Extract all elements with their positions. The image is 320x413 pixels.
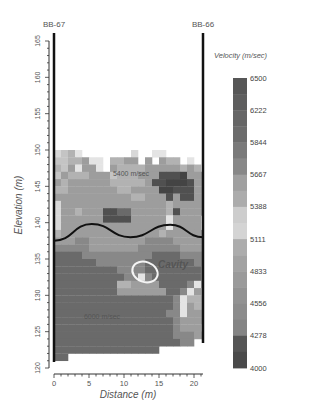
tomogram-cell (75, 339, 82, 347)
tomogram-cell (68, 194, 75, 202)
tomogram-cell (131, 215, 138, 223)
tomogram-cell (75, 317, 82, 325)
tomogram-cell (124, 252, 131, 260)
tomogram-cell (89, 295, 96, 303)
colorbar-band (233, 352, 247, 369)
colorbar-label: 4000 (250, 364, 267, 373)
tomogram-cell (187, 274, 194, 282)
tomogram-cell (117, 339, 124, 347)
tomogram-cell (194, 237, 201, 245)
tomogram-cell (124, 274, 131, 282)
tomogram-cell (194, 332, 201, 340)
tomogram-cell (68, 157, 75, 165)
tomogram-cell (173, 179, 180, 187)
tomogram-cell (159, 324, 166, 332)
tomogram-cell (75, 208, 82, 216)
tomogram-cell (117, 194, 124, 202)
tomogram-cell (82, 303, 89, 311)
tomogram-cell (61, 266, 68, 274)
tomogram-cell (110, 332, 117, 340)
tomogram-cell (82, 324, 89, 332)
tomogram-cell (166, 194, 173, 202)
tomogram-cell (159, 201, 166, 209)
tomogram-cell (138, 244, 145, 252)
tomogram-cell (173, 244, 180, 252)
colorbar (233, 78, 247, 368)
tomogram-cell (82, 339, 89, 347)
tomogram-cell (180, 324, 187, 332)
tomogram-cell (138, 303, 145, 311)
tomogram-cell (173, 274, 180, 282)
tomogram-cell (61, 208, 68, 216)
tomogram-cell (173, 186, 180, 194)
tomogram-cell (89, 324, 96, 332)
tomogram-cell (180, 339, 187, 347)
tomogram-cell (145, 252, 152, 260)
tomogram-cell (159, 295, 166, 303)
tomogram-cell (82, 266, 89, 274)
tomogram-cell (166, 274, 173, 282)
tomogram-cell (159, 244, 166, 252)
tomogram-cell (75, 215, 82, 223)
tomogram-cell (89, 186, 96, 194)
tomogram-cell (166, 310, 173, 318)
tomogram-cell (124, 194, 131, 202)
tomogram-cell (124, 339, 131, 347)
tomogram-cell (124, 332, 131, 340)
tomogram-cell (96, 259, 103, 267)
tomogram-cell (103, 339, 110, 347)
tomogram-cell (96, 237, 103, 245)
tomogram-cell (75, 172, 82, 180)
tomogram-cell (173, 295, 180, 303)
tomogram-cell (194, 186, 201, 194)
tomogram-cell (110, 179, 117, 187)
tomogram-cell (131, 303, 138, 311)
tomogram-cell (75, 310, 82, 318)
tomogram-cell (173, 157, 180, 165)
tomogram-cell (152, 201, 159, 209)
colorbar-label: 6222 (250, 106, 267, 115)
tomogram-cell (159, 208, 166, 216)
tomogram-cell (96, 179, 103, 187)
tomogram-cell (103, 259, 110, 267)
tomogram-cell (110, 223, 117, 231)
tomogram-cell (138, 223, 145, 231)
tomogram-cell (89, 252, 96, 260)
tomogram-cell (145, 295, 152, 303)
tomogram-cell (68, 317, 75, 325)
colorbar-band (233, 255, 247, 272)
tomogram-cell (110, 237, 117, 245)
tomogram-cell (75, 332, 82, 340)
tomogram-cell (173, 194, 180, 202)
tomogram-cell (96, 208, 103, 216)
tomogram-cell (68, 259, 75, 267)
tomogram-cell (117, 274, 124, 282)
tomogram-cell (82, 201, 89, 209)
tomogram-cell (152, 295, 159, 303)
tomogram-cell (124, 324, 131, 332)
tomogram-cell (89, 215, 96, 223)
tomogram-cell (152, 317, 159, 325)
tomogram-cell (124, 244, 131, 252)
y-tick-label: 130 (34, 289, 41, 301)
tomogram-cell (61, 179, 68, 187)
tomogram-cell (131, 179, 138, 187)
tomogram-cell (124, 201, 131, 209)
tomogram-cell (124, 157, 131, 165)
tomogram-cell (145, 201, 152, 209)
tomogram-cell (131, 295, 138, 303)
tomogram-cell (103, 346, 110, 354)
tomogram-cell (96, 324, 103, 332)
tomogram-cell (89, 208, 96, 216)
tomogram-cell (124, 317, 131, 325)
tomogram-cell (110, 194, 117, 202)
tomogram-cell (145, 215, 152, 223)
tomogram-cell (61, 288, 68, 296)
tomogram-cell (194, 215, 201, 223)
tomogram-cell (96, 165, 103, 173)
tomogram-cell (180, 332, 187, 340)
tomogram-cell (117, 186, 124, 194)
y-tick-label: 135 (34, 253, 41, 265)
colorbar-band (233, 126, 247, 143)
tomogram-cell (124, 179, 131, 187)
